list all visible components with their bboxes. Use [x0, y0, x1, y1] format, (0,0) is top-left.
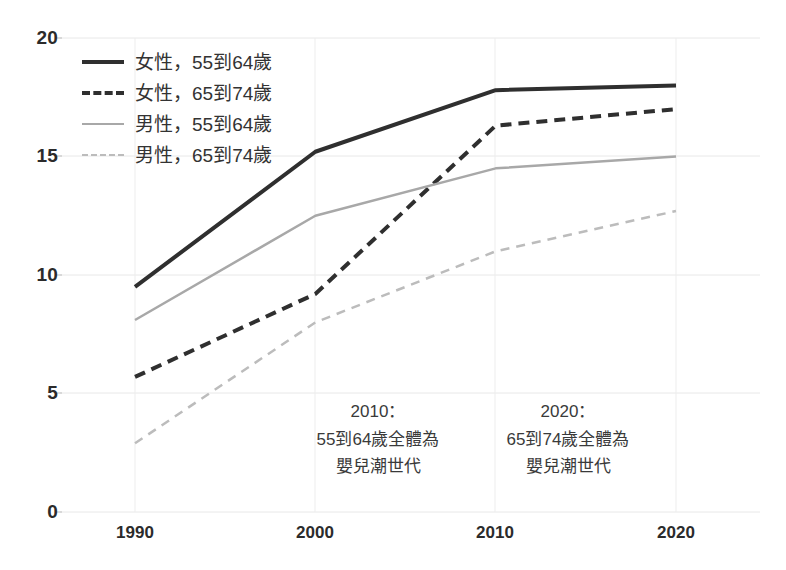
y-tick-label-5: 5	[12, 382, 58, 404]
annotation-2020: 2020： 65到74歲全體為 嬰兒潮世代	[452, 398, 684, 481]
y-axis-labels: 20 15 10 5 0	[0, 0, 58, 570]
x-tick-label-1990: 1990	[116, 523, 154, 543]
y-tick-label-10: 10	[12, 264, 58, 286]
legend-label: 女性，65到74歲	[135, 84, 272, 103]
x-tick-label-2010: 2010	[476, 523, 514, 543]
series-line-2	[135, 157, 676, 321]
legend-item-male-65-74[interactable]: 男性，65到74歲	[82, 141, 272, 169]
legend-label: 男性，55到64歲	[135, 115, 272, 134]
y-tick-label-0: 0	[12, 501, 58, 523]
legend-item-male-55-64[interactable]: 男性，55到64歲	[82, 110, 272, 138]
y-tick-label-20: 20	[12, 27, 58, 49]
legend-item-female-65-74[interactable]: 女性，65到74歲	[82, 79, 272, 107]
legend-line-swatch-icon	[82, 117, 124, 131]
annotation-2020-line1: 2020：	[452, 398, 684, 426]
chart-legend: 女性，55到64歲 女性，65到74歲 男性，55到64歲 男性，65到74歲	[82, 48, 272, 169]
legend-label: 男性，65到74歲	[135, 146, 272, 165]
annotation-2020-line2: 65到74歲全體為	[452, 426, 684, 454]
legend-line-swatch-icon	[82, 55, 124, 69]
x-tick-label-2020: 2020	[657, 523, 695, 543]
x-tick-label-2000: 2000	[296, 523, 334, 543]
annotation-2020-line3: 嬰兒潮世代	[452, 453, 684, 481]
y-tick-label-15: 15	[12, 145, 58, 167]
line-chart: 20 15 10 5 0 1990 2000 2010 2020 女性，55到6…	[0, 0, 786, 570]
legend-dashed-line-swatch-icon	[82, 148, 124, 162]
legend-dashed-line-swatch-icon	[82, 86, 124, 100]
legend-item-female-55-64[interactable]: 女性，55到64歲	[82, 48, 272, 76]
legend-label: 女性，55到64歲	[135, 53, 272, 72]
